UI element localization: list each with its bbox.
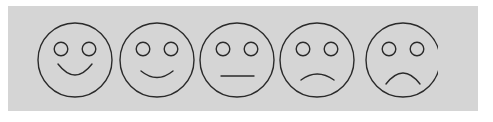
sad-face[interactable] bbox=[276, 6, 358, 111]
face-option-4[interactable] bbox=[276, 6, 358, 111]
right-eye-icon bbox=[82, 42, 96, 56]
face-option-2[interactable] bbox=[116, 6, 198, 111]
mouth-shallow-frown-icon bbox=[301, 74, 334, 80]
neutral-face[interactable] bbox=[196, 6, 278, 111]
very-happy-face[interactable] bbox=[34, 6, 116, 111]
mouth-shallow-smile-icon bbox=[141, 71, 173, 78]
left-eye-icon bbox=[54, 42, 68, 56]
mouth-deep-smile-icon bbox=[58, 64, 92, 75]
right-eye-icon bbox=[324, 42, 338, 56]
faces-row bbox=[8, 6, 478, 111]
face-option-5[interactable] bbox=[356, 6, 438, 111]
smiley-face-rating-scale bbox=[0, 0, 493, 122]
left-eye-icon bbox=[296, 42, 310, 56]
face-outline-circle bbox=[200, 23, 274, 97]
face-outline-circle bbox=[366, 23, 438, 97]
left-eye-icon bbox=[136, 42, 150, 56]
happy-face[interactable] bbox=[116, 6, 198, 111]
right-eye-icon bbox=[164, 42, 178, 56]
rating-scale-panel bbox=[8, 6, 478, 111]
face-option-3[interactable] bbox=[196, 6, 278, 111]
mouth-deep-frown-icon bbox=[386, 73, 420, 84]
very-sad-face[interactable] bbox=[356, 6, 438, 111]
right-eye-icon bbox=[244, 42, 258, 56]
face-outline-circle bbox=[38, 23, 112, 97]
left-eye-icon bbox=[216, 42, 230, 56]
face-outline-circle bbox=[280, 23, 354, 97]
face-outline-circle bbox=[120, 23, 194, 97]
face-option-1[interactable] bbox=[34, 6, 116, 111]
left-eye-icon bbox=[382, 42, 396, 56]
right-eye-icon bbox=[410, 42, 424, 56]
